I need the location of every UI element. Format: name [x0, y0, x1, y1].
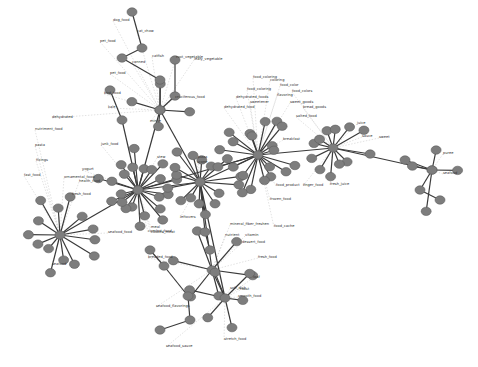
graph-node[interactable] — [155, 76, 165, 84]
hub-node-fruit[interactable] — [328, 144, 338, 152]
graph-node[interactable] — [224, 128, 234, 136]
graph-node[interactable] — [185, 316, 195, 324]
graph-node[interactable] — [45, 269, 55, 277]
graph-node[interactable] — [435, 196, 445, 204]
graph-node[interactable] — [107, 197, 117, 205]
graph-node[interactable] — [154, 193, 164, 201]
graph-node[interactable] — [237, 189, 247, 197]
graph-node[interactable] — [88, 225, 98, 233]
graph-node[interactable] — [153, 122, 163, 130]
graph-node[interactable] — [234, 181, 244, 189]
graph-node[interactable] — [334, 160, 344, 168]
hub-node-foodstuff[interactable] — [253, 151, 263, 159]
graph-node[interactable] — [172, 148, 182, 156]
graph-node[interactable] — [186, 194, 196, 202]
graph-node[interactable] — [214, 189, 224, 197]
graph-node[interactable] — [117, 198, 127, 206]
graph-node[interactable] — [155, 326, 165, 334]
graph-node[interactable] — [195, 178, 205, 186]
graph-node[interactable] — [290, 161, 300, 169]
graph-node[interactable] — [238, 171, 248, 179]
graph-node[interactable] — [183, 292, 193, 300]
graph-node[interactable] — [127, 97, 137, 105]
graph-node[interactable] — [259, 176, 269, 184]
graph-node[interactable] — [269, 146, 279, 154]
graph-node[interactable] — [135, 222, 145, 230]
graph-node[interactable] — [228, 163, 238, 171]
graph-node[interactable] — [119, 170, 129, 178]
graph-node[interactable] — [90, 236, 100, 244]
graph-node[interactable] — [194, 200, 204, 208]
graph-node[interactable] — [140, 212, 150, 220]
graph-node[interactable] — [117, 54, 127, 62]
graph-node[interactable] — [228, 138, 238, 146]
graph-node[interactable] — [116, 190, 126, 198]
graph-node[interactable] — [315, 165, 325, 173]
graph-node[interactable] — [400, 156, 410, 164]
graph-node[interactable] — [185, 108, 195, 116]
graph-node[interactable] — [107, 177, 117, 185]
graph-node[interactable] — [158, 160, 168, 168]
graph-node[interactable] — [155, 106, 165, 114]
graph-node[interactable] — [145, 246, 155, 254]
graph-node[interactable] — [69, 260, 79, 268]
graph-node[interactable] — [427, 166, 437, 174]
graph-node[interactable] — [89, 252, 99, 260]
graph-node[interactable] — [128, 163, 138, 171]
hub-node-meat[interactable] — [220, 294, 230, 302]
graph-node[interactable] — [307, 154, 317, 162]
graph-node[interactable] — [222, 155, 232, 163]
graph-node[interactable] — [215, 146, 225, 154]
graph-node[interactable] — [326, 172, 336, 180]
graph-node[interactable] — [155, 205, 165, 213]
graph-node[interactable] — [421, 207, 431, 215]
graph-node[interactable] — [155, 175, 165, 183]
graph-node[interactable] — [158, 216, 168, 224]
graph-node[interactable] — [200, 210, 210, 218]
graph-node[interactable] — [365, 150, 375, 158]
graph-node[interactable] — [137, 44, 147, 52]
graph-node[interactable] — [77, 212, 87, 220]
hub-node-rice-dish[interactable] — [55, 231, 65, 239]
graph-node[interactable] — [260, 117, 270, 125]
graph-node[interactable] — [200, 228, 210, 236]
graph-node[interactable] — [133, 186, 143, 194]
node-label: fresh_food — [72, 192, 91, 196]
graph-node[interactable] — [53, 204, 63, 212]
graph-node[interactable] — [210, 268, 220, 276]
graph-node[interactable] — [117, 116, 127, 124]
graph-node[interactable] — [129, 144, 139, 152]
graph-node[interactable] — [203, 313, 213, 321]
graph-node[interactable] — [170, 163, 180, 171]
graph-node[interactable] — [44, 244, 54, 252]
graph-node[interactable] — [265, 163, 275, 171]
graph-node[interactable] — [33, 240, 43, 248]
graph-node[interactable] — [247, 132, 257, 140]
graph-node[interactable] — [205, 246, 215, 254]
graph-node[interactable] — [315, 135, 325, 143]
graph-node[interactable] — [159, 262, 169, 270]
graph-node[interactable] — [330, 125, 340, 133]
graph-node[interactable] — [36, 196, 46, 204]
graph-node[interactable] — [33, 217, 43, 225]
graph-node[interactable] — [127, 8, 137, 16]
graph-node[interactable] — [407, 162, 417, 170]
graph-node[interactable] — [116, 161, 126, 169]
graph-node[interactable] — [281, 168, 291, 176]
graph-node[interactable] — [345, 123, 355, 131]
graph-node[interactable] — [172, 171, 182, 179]
graph-node[interactable] — [210, 200, 220, 208]
node-label: sweet_goods — [290, 100, 313, 104]
node-label: leafy_vegetable — [194, 57, 223, 61]
graph-node[interactable] — [176, 196, 186, 204]
graph-node[interactable] — [431, 146, 441, 154]
graph-node[interactable] — [213, 163, 223, 171]
graph-node[interactable] — [163, 184, 173, 192]
graph-node[interactable] — [147, 165, 157, 173]
graph-node[interactable] — [232, 237, 242, 245]
graph-node[interactable] — [277, 122, 287, 130]
graph-node[interactable] — [227, 323, 237, 331]
graph-node[interactable] — [415, 186, 425, 194]
graph-node[interactable] — [23, 231, 33, 239]
graph-node[interactable] — [188, 151, 198, 159]
